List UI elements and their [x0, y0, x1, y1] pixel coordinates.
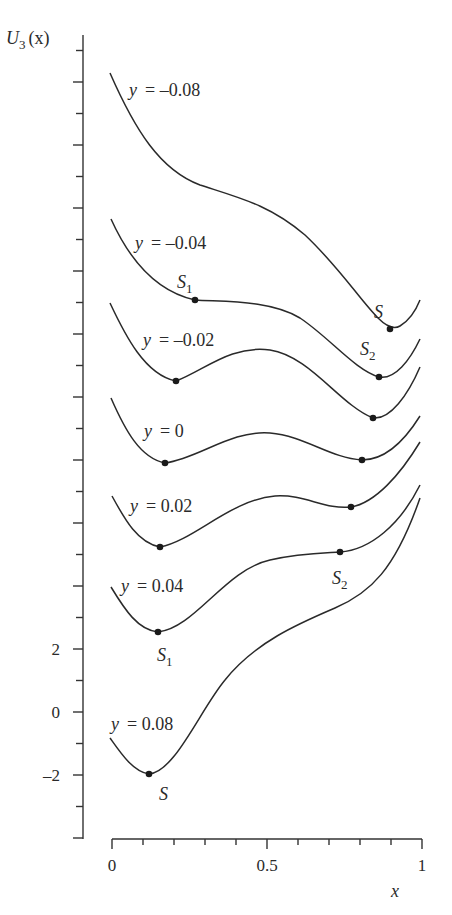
- point-label-S-bottom: S: [159, 784, 168, 804]
- point-label-S1-top: S1: [177, 272, 193, 296]
- x-tick-label-0: 0: [108, 856, 117, 875]
- x-axis-label: x: [390, 881, 399, 901]
- curve-label-neg0.04: y = –0.04: [133, 233, 206, 253]
- critical-point-0.02-right: [348, 504, 355, 511]
- curve-y-neg0.08: [110, 73, 420, 328]
- curve-label-0: y = 0: [142, 421, 184, 441]
- y-axis-label: U3(x): [6, 28, 50, 52]
- point-label-S2-mid: S2: [332, 568, 348, 592]
- curve-label-neg0.08: y = –0.08: [127, 80, 200, 100]
- curve-label-0.04: y = 0.04: [119, 576, 183, 596]
- curve-label-neg0.02: y = –0.02: [141, 330, 214, 350]
- critical-point-S2-top: [376, 374, 383, 381]
- critical-point-S-top: [387, 326, 394, 333]
- curve-label-0.08: y = 0.08: [109, 714, 173, 734]
- critical-point-0.02-left: [157, 544, 164, 551]
- x-tick-label-0.5: 0.5: [256, 856, 277, 875]
- critical-point-S2-mid: [337, 549, 344, 556]
- y-axis: [73, 35, 83, 839]
- x-tick-label-1: 1: [418, 856, 427, 875]
- critical-point-0-right: [359, 457, 366, 464]
- critical-point-S1-bottom: [155, 629, 162, 636]
- chart-canvas: U3(x) x 0 0.5 1 2 0 –2 y = –0.08 y = –0.…: [0, 0, 452, 915]
- critical-point-neg0.02-left: [173, 378, 180, 385]
- critical-point-S1-top: [192, 297, 199, 304]
- critical-point-neg0.02-right: [370, 415, 377, 422]
- curve-label-0.02: y = 0.02: [128, 496, 192, 516]
- y-tick-label-2: 2: [52, 640, 61, 659]
- point-label-S2-top: S2: [360, 339, 376, 363]
- x-axis: [112, 839, 422, 849]
- critical-point-0-left: [162, 460, 169, 467]
- y-tick-label-0: 0: [52, 703, 61, 722]
- y-tick-label-neg2: –2: [42, 766, 60, 785]
- point-label-S-top: S: [374, 302, 383, 322]
- critical-point-S-bottom: [146, 771, 153, 778]
- point-label-S1-bottom: S1: [157, 645, 173, 669]
